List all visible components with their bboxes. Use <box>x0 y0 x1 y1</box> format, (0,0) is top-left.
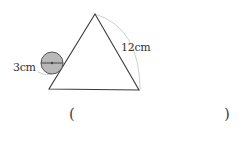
side-length-label: 12cm <box>121 42 150 53</box>
geometry-figure <box>0 0 241 141</box>
circle-diameter-label: 3cm <box>13 62 36 73</box>
answer-open-paren: ( <box>69 107 75 122</box>
circle-center <box>51 62 53 64</box>
answer-close-paren: ) <box>224 107 230 122</box>
